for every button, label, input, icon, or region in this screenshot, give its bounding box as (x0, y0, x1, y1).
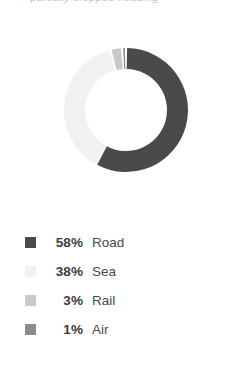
legend-percent-air: 1% (49, 322, 83, 337)
legend-item-sea[interactable]: 38% Sea (0, 257, 251, 286)
legend-label-rail: Rail (92, 293, 115, 308)
legend-label-road: Road (92, 235, 124, 250)
donut-chart-svg (61, 22, 191, 200)
legend-item-road[interactable]: 58% Road (0, 228, 251, 257)
legend-item-rail[interactable]: 3% Rail (0, 286, 251, 315)
donut-slice-air[interactable] (123, 48, 125, 69)
legend-percent-road: 58% (49, 235, 83, 250)
legend-swatch-road (25, 237, 36, 248)
legend-swatch-rail (25, 295, 36, 306)
page-title: partially cropped heading (30, 0, 158, 3)
donut-chart (61, 22, 191, 200)
legend-swatch-air (25, 324, 36, 335)
chart-legend: 58% Road 38% Sea 3% Rail 1% Air (0, 228, 251, 344)
donut-slice-group (64, 48, 188, 172)
legend-label-sea: Sea (92, 264, 116, 279)
legend-label-air: Air (92, 322, 109, 337)
cropped-title-strip: partially cropped heading (0, 0, 251, 10)
chart-page: partially cropped heading 58% Road 38% S… (0, 0, 251, 375)
legend-swatch-sea (25, 266, 36, 277)
legend-percent-sea: 38% (49, 264, 83, 279)
legend-item-air[interactable]: 1% Air (0, 315, 251, 344)
legend-percent-rail: 3% (49, 293, 83, 308)
